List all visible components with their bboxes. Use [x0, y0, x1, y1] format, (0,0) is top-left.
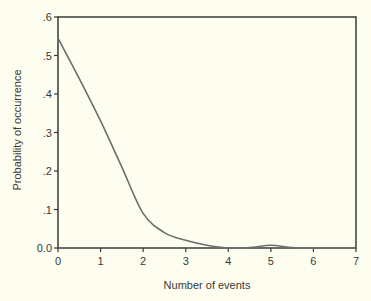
y-tick-label: 0.0	[37, 242, 52, 254]
x-tick-label: 4	[225, 255, 231, 267]
x-tick-label: 2	[140, 255, 146, 267]
y-tick-label: .4	[43, 88, 52, 100]
y-tick-label: .3	[43, 127, 52, 139]
plot-frame	[58, 17, 356, 248]
x-tick-label: 6	[310, 255, 316, 267]
y-axis-title: Probability of occurrence	[11, 69, 23, 190]
x-axis-ticks: 01234567	[55, 248, 359, 267]
y-tick-label: .2	[43, 165, 52, 177]
probability-curve	[58, 38, 356, 248]
x-tick-label: 3	[183, 255, 189, 267]
chart: 0.0.1.2.3.4.5.6 01234567 Number of event…	[0, 0, 371, 301]
x-tick-label: 5	[268, 255, 274, 267]
x-axis-title: Number of events	[164, 279, 251, 291]
plot-border	[58, 17, 356, 248]
y-tick-label: .1	[43, 204, 52, 216]
x-tick-label: 0	[55, 255, 61, 267]
x-tick-label: 1	[98, 255, 104, 267]
y-axis-ticks: 0.0.1.2.3.4.5.6	[37, 11, 58, 254]
y-tick-label: .5	[43, 50, 52, 62]
x-tick-label: 7	[353, 255, 359, 267]
y-tick-label: .6	[43, 11, 52, 23]
